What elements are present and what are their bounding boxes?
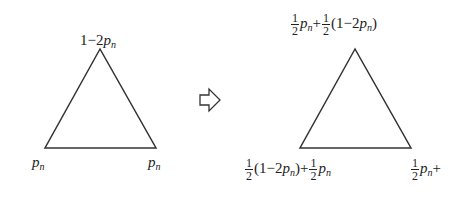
- label-var: p: [148, 154, 156, 170]
- fraction: 12: [411, 157, 419, 182]
- fraction: 12: [309, 157, 317, 182]
- left-bottom-left-vertex-label: pn: [32, 155, 45, 172]
- fraction: 12: [322, 12, 330, 37]
- left-top-vertex-label: 1−2pn: [80, 33, 116, 50]
- right-bottom-left-vertex-label: 12(1−2pn)+12pn: [244, 157, 331, 182]
- label-sub: n: [111, 39, 116, 50]
- fraction: 12: [245, 157, 253, 182]
- label-sub: n: [40, 161, 45, 172]
- hollow-right-arrow-icon: [200, 89, 220, 111]
- right-triangle: [300, 49, 411, 148]
- label-var: p: [103, 32, 111, 48]
- fraction: 12: [291, 12, 299, 37]
- right-bottom-right-vertex-label: 12pn+: [410, 157, 441, 182]
- label-prefix: 1−2: [80, 32, 103, 48]
- diagram-canvas: [0, 0, 463, 206]
- label-var: p: [32, 154, 40, 170]
- right-top-vertex-label: 12pn+12(1−2pn): [290, 12, 377, 37]
- left-bottom-right-vertex-label: pn: [148, 155, 161, 172]
- left-triangle: [45, 49, 156, 148]
- label-sub: n: [156, 161, 161, 172]
